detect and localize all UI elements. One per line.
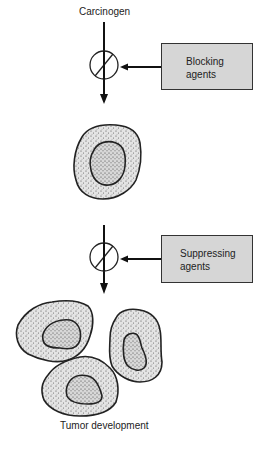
initiated-cell: [74, 125, 141, 199]
tumor-cell-left: [16, 301, 92, 362]
tumor-development-label: Tumor development: [60, 420, 149, 431]
suppressing-agents-text: Suppressing agents: [180, 247, 236, 273]
suppressing-line-2: agents: [180, 260, 236, 273]
tumor-cell-bottom: [42, 357, 118, 416]
blocking-agents-text: Blocking agents: [186, 55, 224, 81]
suppressing-line-1: Suppressing: [180, 247, 236, 260]
suppressing-arrow: [120, 256, 161, 263]
blocking-arrow: [120, 64, 161, 71]
carcinogen-label: Carcinogen: [79, 6, 130, 17]
suppressing-agents-box: Suppressing agents: [161, 235, 253, 283]
tumor-cell-right: [110, 309, 163, 382]
blocking-line-2: agents: [186, 68, 224, 81]
blocking-line-1: Blocking: [186, 55, 224, 68]
inhibition-symbol-2: [90, 243, 118, 271]
blocking-agents-box: Blocking agents: [161, 43, 253, 90]
inhibition-symbol-1: [90, 51, 118, 79]
